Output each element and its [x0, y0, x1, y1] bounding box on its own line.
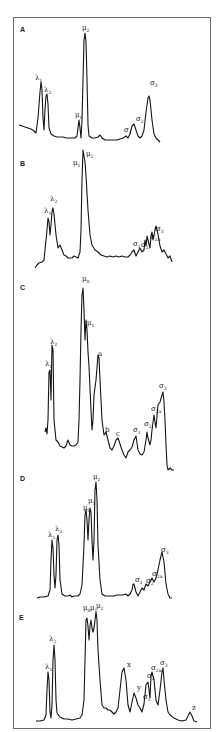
- svg-text:y: y: [136, 684, 141, 692]
- svg-text:μ0: μ0: [83, 504, 91, 513]
- svg-text:x: x: [127, 661, 131, 669]
- panel-letter-c: C: [20, 284, 25, 291]
- svg-text:c: c: [116, 430, 120, 438]
- panel-e: E λ1 λ2 μ0 μ1 μ2 x y σ1 σ2 σ2a σ3 z: [19, 602, 197, 722]
- svg-text:σ3: σ3: [161, 546, 169, 555]
- trace-c: [45, 288, 174, 470]
- panel-d: D λ1 λ2 μ0 μ1 μ2 σ1 σ2 σ2a σ3: [20, 473, 172, 598]
- trace-a: [19, 33, 160, 142]
- svg-text:λ2: λ2: [49, 635, 56, 644]
- panel-letter-a: A: [20, 26, 25, 33]
- svg-text:μ1: μ1: [87, 319, 95, 328]
- svg-text:σ2: σ2: [144, 420, 152, 429]
- svg-text:λ1: λ1: [45, 663, 52, 672]
- svg-text:a: a: [98, 350, 102, 358]
- svg-text:σ3: σ3: [159, 382, 167, 391]
- svg-text:σ3: σ3: [150, 79, 158, 88]
- svg-text:σ3: σ3: [160, 659, 168, 668]
- svg-text:μ2: μ2: [86, 150, 94, 159]
- svg-text:μ2: μ2: [96, 602, 104, 611]
- svg-text:σ2: σ2: [147, 672, 155, 681]
- panel-letter-b: B: [20, 160, 25, 167]
- svg-text:σ1: σ1: [135, 576, 143, 585]
- svg-text:σ2: σ2: [136, 115, 144, 124]
- trace-b: [35, 150, 172, 268]
- svg-text:σ1: σ1: [124, 126, 132, 135]
- svg-text:μ2: μ2: [82, 24, 90, 33]
- svg-text:λ2: λ2: [44, 86, 51, 95]
- svg-text:σ3: σ3: [156, 225, 164, 234]
- trace-e: [36, 612, 197, 722]
- svg-text:λ2: λ2: [55, 525, 62, 534]
- svg-text:λ1: λ1: [35, 74, 42, 83]
- panel-a: A λ1 λ2 μ1 μ2 σ1 σ2 σ3: [19, 24, 160, 142]
- svg-text:b: b: [105, 426, 110, 434]
- svg-text:σ1: σ1: [133, 240, 141, 249]
- svg-text:σ2a: σ2a: [151, 405, 162, 414]
- panel-letter-e: E: [19, 614, 24, 621]
- svg-text:σ2a: σ2a: [150, 233, 161, 242]
- svg-text:μ2: μ2: [93, 473, 101, 482]
- svg-text:λ2: λ2: [50, 338, 57, 347]
- svg-text:μ1: μ1: [73, 159, 81, 168]
- svg-text:σ2: σ2: [141, 241, 149, 250]
- panel-c: C λ1 λ2 μ0 μ1 a b c σ1 σ2 σ2a σ3: [20, 275, 174, 470]
- panel-letter-d: D: [20, 475, 25, 482]
- svg-text:λ2: λ2: [50, 195, 57, 204]
- svg-text:σ1: σ1: [133, 426, 141, 435]
- panel-b: B λ1 λ2 μ1 μ2 σ1 σ2 σ2a σ3: [20, 150, 172, 268]
- svg-text:z: z: [192, 704, 196, 712]
- svg-text:μ1: μ1: [75, 111, 83, 120]
- svg-text:μ0: μ0: [82, 275, 90, 284]
- svg-text:λ1: λ1: [44, 207, 51, 216]
- spectra-figure: A λ1 λ2 μ1 μ2 σ1 σ2 σ3 B λ1 λ2 μ1 μ2 σ1 …: [0, 0, 224, 732]
